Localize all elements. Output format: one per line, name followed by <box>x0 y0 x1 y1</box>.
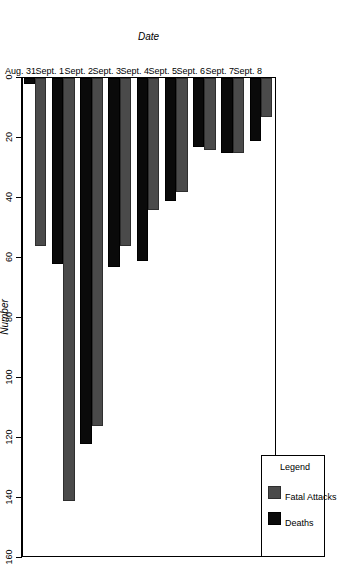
category-tick-label: Sept. 6 <box>177 66 206 76</box>
bar-fatal-attacks <box>92 78 103 426</box>
bar-deaths <box>250 78 261 141</box>
category-tick-label: Sept. 3 <box>92 66 121 76</box>
value-tick <box>16 317 22 318</box>
bar-fatal-attacks <box>261 78 272 117</box>
bar-group <box>134 78 162 556</box>
category-tick-label: Sept. 4 <box>120 66 149 76</box>
value-tick <box>16 497 22 498</box>
value-tick <box>16 377 22 378</box>
value-tick <box>16 137 22 138</box>
bar-deaths <box>193 78 204 147</box>
category-tick-label: Sept. 8 <box>233 66 262 76</box>
bar-fatal-attacks <box>120 78 131 246</box>
bar-group <box>162 78 190 556</box>
bar-group <box>190 78 218 556</box>
category-tick-label: Sept. 5 <box>149 66 178 76</box>
category-axis-title: Date <box>22 30 276 44</box>
legend-swatch <box>268 486 281 499</box>
category-tick-label: Aug. 31 <box>5 66 36 76</box>
bar-deaths <box>80 78 91 444</box>
value-tick <box>16 557 22 558</box>
bar-group <box>21 78 49 556</box>
legend-swatch <box>268 512 281 525</box>
bar-fatal-attacks <box>148 78 159 210</box>
legend-item-label: Deaths <box>285 518 314 528</box>
bar-fatal-attacks <box>204 78 215 150</box>
legend-box: Legend Fatal AttacksDeaths <box>261 455 325 557</box>
bar-fatal-attacks <box>35 78 46 246</box>
value-tick <box>16 257 22 258</box>
bar-deaths <box>109 78 120 267</box>
category-tick-label: Sept. 2 <box>64 66 93 76</box>
bar-fatal-attacks <box>63 78 74 501</box>
bar-group <box>219 78 247 556</box>
bars-container <box>23 78 275 556</box>
category-tick-label: Sept. 1 <box>36 66 65 76</box>
bar-fatal-attacks <box>176 78 187 192</box>
value-axis-title: Number <box>0 77 10 557</box>
legend-item: Deaths <box>262 508 324 534</box>
value-tick <box>16 197 22 198</box>
legend-item-label: Fatal Attacks <box>285 492 337 502</box>
legend-inner: Legend Fatal AttacksDeaths <box>262 456 324 556</box>
bar-group <box>77 78 105 556</box>
bar-group <box>49 78 77 556</box>
plot-panel <box>22 77 276 557</box>
bar-deaths <box>24 78 35 84</box>
bar-deaths <box>137 78 148 261</box>
value-axis: 020406080100120140160 <box>21 77 22 557</box>
bar-deaths <box>221 78 232 153</box>
legend-title: Legend <box>280 462 310 472</box>
value-tick <box>16 437 22 438</box>
bar-deaths <box>165 78 176 201</box>
bar-deaths <box>52 78 63 264</box>
legend-item: Fatal Attacks <box>262 482 324 508</box>
category-axis-title-text: Date <box>138 32 159 43</box>
bar-group <box>106 78 134 556</box>
category-tick-label: Sept. 7 <box>205 66 234 76</box>
value-tick <box>16 77 22 78</box>
bar-fatal-attacks <box>233 78 244 153</box>
category-axis: Aug. 31Sept. 1Sept. 2Sept. 3Sept. 4Sept.… <box>22 76 276 77</box>
